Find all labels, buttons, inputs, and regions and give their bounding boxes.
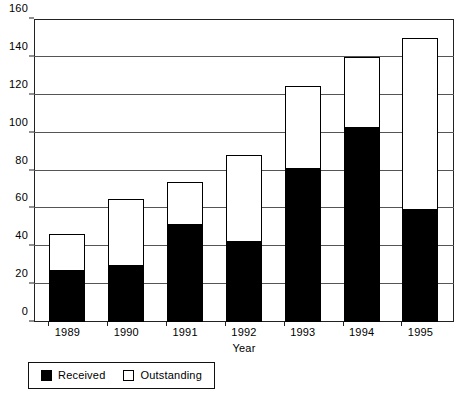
- bar-segment-received: [168, 224, 202, 322]
- bar-segment-received: [403, 209, 437, 322]
- bar-segment-received: [286, 168, 320, 322]
- bar-group: [49, 19, 85, 322]
- stacked-bar: [226, 155, 262, 322]
- x-axis-labels: 1989199019911992199319941995: [34, 325, 454, 341]
- y-tick-label: 80: [15, 154, 28, 165]
- legend-label: Outstanding: [140, 369, 202, 382]
- x-tick-label: 1993: [285, 325, 321, 341]
- legend-item: Received: [41, 369, 105, 382]
- bar-segment-received: [227, 241, 261, 322]
- x-tick-label: 1992: [226, 325, 262, 341]
- bar-group: [402, 19, 438, 322]
- y-tick-label: 160: [9, 3, 28, 14]
- bar-segment-outstanding: [227, 156, 261, 241]
- x-axis-title: Year: [34, 341, 454, 355]
- bar-group: [285, 19, 321, 322]
- y-tick-label: 0: [22, 306, 28, 317]
- legend-swatch-outstanding: [123, 370, 134, 381]
- legend-item: Outstanding: [123, 369, 202, 382]
- x-tick-label: 1994: [344, 325, 380, 341]
- bar-group: [108, 19, 144, 322]
- bar-chart-figure: 020406080100120140160 198919901991199219…: [0, 0, 468, 405]
- bar-segment-outstanding: [403, 39, 437, 209]
- y-tick-label: 20: [15, 268, 28, 279]
- bar-segment-outstanding: [109, 200, 143, 265]
- bar-segment-received: [345, 127, 379, 322]
- bar-group: [167, 19, 203, 322]
- x-tick-label: 1990: [108, 325, 144, 341]
- y-tick-label: 140: [9, 40, 28, 51]
- y-tick-label: 100: [9, 116, 28, 127]
- bar-segment-outstanding: [50, 235, 84, 270]
- x-tick-label: 1995: [402, 325, 438, 341]
- legend: ReceivedOutstanding: [28, 362, 215, 389]
- y-tick-label: 60: [15, 192, 28, 203]
- stacked-bar: [167, 182, 203, 322]
- stacked-bar: [49, 234, 85, 322]
- stacked-bar: [402, 38, 438, 322]
- y-tick-label: 40: [15, 230, 28, 241]
- stacked-bar: [344, 57, 380, 322]
- y-tick-label: 120: [9, 78, 28, 89]
- stacked-bar: [108, 199, 144, 322]
- bar-segment-received: [109, 265, 143, 322]
- bar-segment-received: [50, 270, 84, 322]
- bar-group: [344, 19, 380, 322]
- bar-group: [226, 19, 262, 322]
- bars-layer: [34, 19, 454, 322]
- plot-area: 020406080100120140160: [34, 19, 454, 322]
- legend-swatch-received: [41, 370, 52, 381]
- bar-segment-outstanding: [345, 58, 379, 127]
- legend-label: Received: [58, 369, 105, 382]
- bar-segment-outstanding: [286, 87, 320, 168]
- x-tick-label: 1989: [49, 325, 85, 341]
- bar-segment-outstanding: [168, 183, 202, 224]
- x-tick-label: 1991: [167, 325, 203, 341]
- stacked-bar: [285, 86, 321, 322]
